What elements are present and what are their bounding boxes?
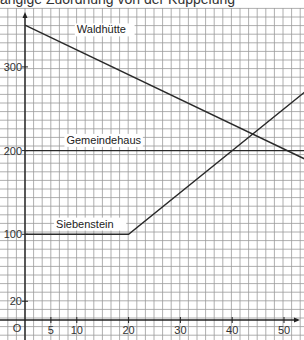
x-tick-label: 20: [122, 324, 134, 336]
series-label: Siebenstein: [56, 218, 114, 230]
x-tick-label: 40: [226, 324, 238, 336]
x-tick-label: 30: [174, 324, 186, 336]
y-tick-label: 100: [4, 228, 22, 240]
x-tick-label: 10: [71, 324, 83, 336]
x-tick-label: 5: [48, 324, 54, 336]
axes: [0, 12, 300, 340]
y-axis-arrow-icon: [23, 12, 28, 18]
x-tick-label: 50: [278, 324, 290, 336]
line-chart: 5102030405020100200300O WaldhütteGemeind…: [0, 0, 304, 340]
tick-labels: 5102030405020100200300O: [4, 61, 290, 336]
origin-label: O: [13, 322, 22, 334]
y-tick-label: 20: [10, 295, 22, 307]
y-tick-label: 200: [4, 145, 22, 157]
series-label: Gemeindehaus: [66, 134, 141, 146]
series-label: Waldhütte: [77, 23, 126, 35]
grid: [0, 8, 304, 340]
y-tick-label: 300: [4, 61, 22, 73]
